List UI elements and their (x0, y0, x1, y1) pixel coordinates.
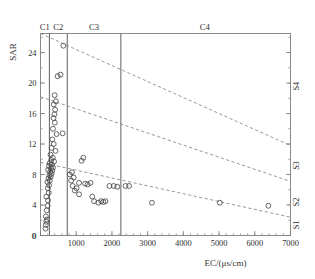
data-point (77, 192, 82, 197)
salinity-class-label: C2 (53, 22, 63, 32)
y-tick-label: 16 (28, 110, 36, 119)
data-point (46, 190, 51, 195)
x-tick-label: 6000 (246, 239, 263, 248)
sodicity-class-label: S1 (293, 220, 302, 229)
salinity-class-label: C1 (40, 22, 50, 32)
ussl-salinity-sodicity-diagram: 1000200030004000500060007000048121620240… (0, 0, 315, 279)
y-tick-label: 8 (32, 171, 36, 180)
x-tick-label: 4000 (175, 239, 192, 248)
x-tick-label: 5000 (211, 239, 228, 248)
data-point (44, 208, 49, 213)
data-point (60, 131, 65, 136)
x-tick-label: 2000 (104, 239, 121, 248)
data-point (217, 200, 222, 205)
data-point (54, 132, 59, 137)
chart-canvas: 1000200030004000500060007000048121620240… (0, 0, 315, 279)
sodicity-class-label: S3 (293, 161, 302, 170)
data-point (127, 184, 132, 189)
data-point (51, 142, 56, 147)
data-point (53, 107, 58, 112)
salinity-class-label: C3 (89, 22, 99, 32)
x-tick-label: 1000 (68, 239, 85, 248)
y-tick-label: 24 (28, 49, 37, 58)
y-tick-label-zero: 0 (32, 232, 36, 241)
x-tick-label: 7000 (282, 239, 299, 248)
data-point (51, 126, 56, 131)
data-point (52, 120, 57, 125)
data-point (52, 93, 57, 98)
data-point (50, 137, 55, 142)
sodicity-class-label: S2 (293, 198, 302, 207)
x-tick-label: 3000 (139, 239, 156, 248)
plot-frame (41, 34, 291, 236)
data-point (149, 200, 154, 205)
salinity-class-label: C4 (200, 22, 211, 32)
y-axis-title: SAR (8, 43, 18, 61)
y-tick-label: 12 (28, 140, 36, 149)
data-point (266, 203, 271, 208)
sodicity-class-boundary (41, 34, 291, 146)
y-tick-label: 4 (32, 201, 37, 210)
data-point (115, 184, 120, 189)
data-point (43, 214, 48, 219)
data-point (77, 180, 82, 185)
sodicity-class-label: S4 (293, 81, 302, 91)
y-tick-label: 20 (28, 79, 36, 88)
x-axis-title: EC/(μs/cm) (205, 258, 247, 268)
sodicity-class-boundary (41, 97, 291, 182)
